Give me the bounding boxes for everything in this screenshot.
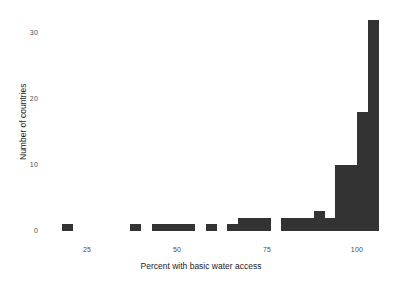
- histogram-bar: [227, 224, 238, 231]
- x-axis-title: Percent with basic water access: [0, 261, 402, 271]
- x-tick-label: 100: [342, 246, 372, 253]
- histogram-bar: [357, 112, 368, 231]
- y-axis-title: Number of countries: [18, 83, 28, 160]
- histogram-bar: [335, 165, 346, 231]
- histogram-bar: [292, 218, 303, 231]
- x-tick-label: 50: [162, 246, 192, 253]
- histogram-bar: [163, 224, 174, 231]
- histogram-bar: [130, 224, 141, 231]
- plot-area: 0102030255075100: [0, 0, 402, 283]
- histogram-chart: 0102030255075100 Number of countries Per…: [0, 0, 402, 283]
- histogram-bar: [281, 218, 292, 231]
- histogram-bar: [238, 218, 249, 231]
- histogram-bar: [249, 218, 260, 231]
- histogram-bar: [62, 224, 73, 231]
- histogram-bar: [152, 224, 163, 231]
- x-tick-label: 75: [252, 246, 282, 253]
- histogram-bar: [173, 224, 184, 231]
- y-tick-label: 10: [12, 161, 38, 168]
- histogram-bar: [346, 165, 357, 231]
- histogram-bar: [325, 218, 336, 231]
- histogram-bar: [206, 224, 217, 231]
- x-tick-label: 25: [72, 246, 102, 253]
- y-tick-label: 0: [12, 227, 38, 234]
- histogram-bar: [303, 218, 314, 231]
- histogram-bar: [368, 20, 379, 231]
- y-tick-label: 30: [12, 29, 38, 36]
- histogram-bar: [184, 224, 195, 231]
- histogram-bar: [260, 218, 271, 231]
- histogram-bar: [314, 211, 325, 231]
